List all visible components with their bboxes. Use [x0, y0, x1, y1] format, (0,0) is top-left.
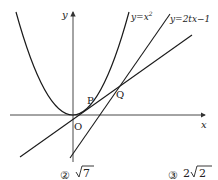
line-through-origin	[20, 35, 192, 157]
x-axis-label: x	[201, 119, 207, 130]
y-axis-label: y	[61, 9, 68, 20]
parabola-label: y=x2	[130, 10, 153, 22]
svg-text:7: 7	[83, 167, 90, 180]
tangent-line	[70, 14, 170, 158]
choice-2-number: ②	[60, 169, 70, 180]
choice-2-value: 7	[76, 166, 94, 180]
coordinate-diagram: y x O y=x2 y=2tx−1 P Q ② 7 ③ 2 2	[0, 0, 218, 180]
point-q-label: Q	[116, 89, 124, 100]
svg-text:2: 2	[199, 167, 206, 180]
svg-text:2: 2	[183, 167, 190, 180]
choice-3-value: 2 2	[183, 166, 212, 180]
choice-3-number: ③	[168, 169, 178, 180]
tangent-line-label: y=2tx−1	[169, 14, 210, 24]
point-p-label: P	[87, 95, 94, 106]
parabola-curve	[16, 12, 129, 115]
origin-label: O	[74, 121, 82, 132]
